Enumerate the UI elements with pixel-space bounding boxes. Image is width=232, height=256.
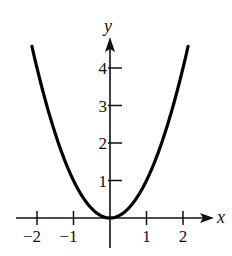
x-axis-label: x (216, 207, 225, 227)
x-tick-label: −1 (59, 227, 77, 246)
y-tick-label: 4 (99, 59, 108, 78)
y-axis-label: y (102, 16, 112, 36)
y-tick-label: 3 (99, 97, 108, 116)
x-tick-label: −2 (23, 227, 41, 246)
y-tick-label: 2 (99, 134, 108, 153)
parabola-chart: x y −2−112 1234 (0, 0, 232, 256)
x-tick-label: 1 (142, 227, 151, 246)
y-tick-label: 1 (99, 172, 108, 191)
x-tick-label: 2 (179, 227, 188, 246)
